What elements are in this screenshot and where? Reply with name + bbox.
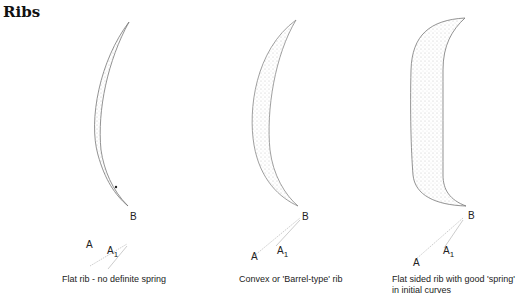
point-b-label: B	[468, 210, 475, 221]
figure-caption: Flat rib - no definite spring	[62, 274, 166, 285]
figure-caption: Convex or 'Barrel-type' rib	[239, 274, 342, 285]
caption-line-1: Flat sided rib with good 'spring'	[392, 274, 515, 285]
point-a1-label: A1	[277, 245, 288, 256]
point-a1-label: A1	[107, 245, 118, 256]
point-a-label: A	[413, 257, 420, 268]
point-a-label: A	[86, 239, 93, 250]
barrel-rib-drawing	[252, 20, 300, 256]
point-a1-label: A1	[443, 245, 454, 256]
point-b-label: B	[302, 211, 309, 222]
caption-line-2: in initial curves	[392, 285, 515, 296]
figure-caption: Flat sided rib with good 'spring' in ini…	[392, 274, 515, 296]
flat-sided-rib-drawing	[411, 18, 466, 260]
flat-rib-drawing	[90, 22, 129, 269]
point-b-label: B	[130, 211, 137, 222]
point-a-label: A	[251, 251, 258, 262]
